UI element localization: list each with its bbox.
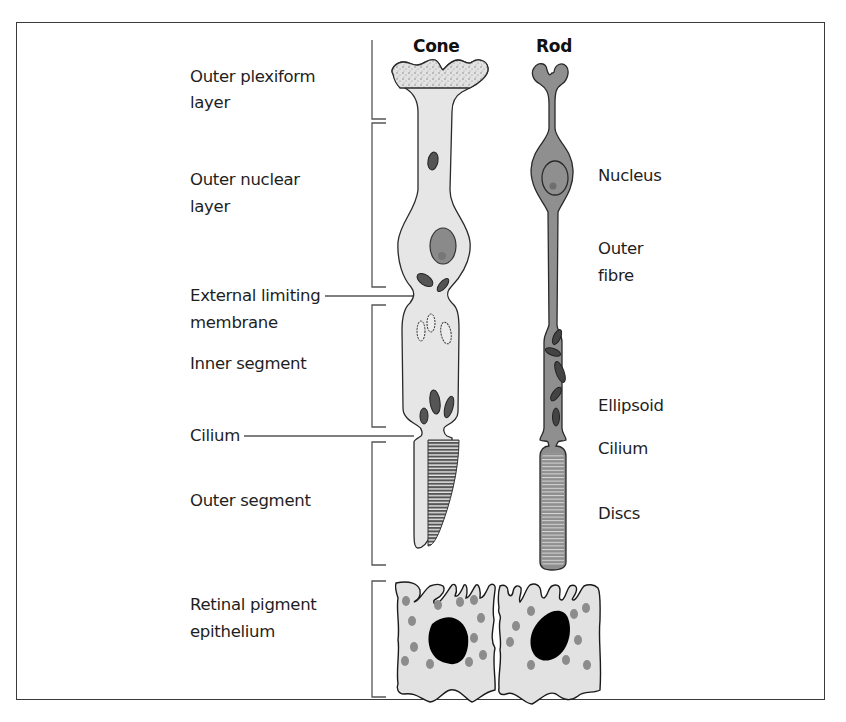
label-outer-segment: Outer segment <box>190 487 311 514</box>
rod-cell <box>531 64 573 570</box>
label-outer-plexiform-line2: layer <box>190 89 230 116</box>
rpe-cells <box>396 582 601 704</box>
label-outer-plexiform-line1: Outer plexiform <box>190 63 315 90</box>
cone-header: Cone <box>413 36 460 56</box>
bracket-outer-plexiform <box>372 40 386 119</box>
label-rpe-line1: Retinal pigment <box>190 591 317 618</box>
label-inner-segment: Inner segment <box>190 350 306 377</box>
label-outer-fibre-line2: fibre <box>598 262 634 289</box>
label-rpe-line2: epithelium <box>190 618 275 645</box>
bracket-rpe <box>372 581 386 697</box>
photoreceptor-diagram <box>0 0 846 722</box>
label-elm-line1: External limiting <box>190 282 320 309</box>
label-cilium-left: Cilium <box>190 422 240 449</box>
label-discs: Discs <box>598 500 640 527</box>
label-nucleus: Nucleus <box>598 162 662 189</box>
bracket-outer-nuclear <box>372 123 386 287</box>
label-outer-nuclear-line1: Outer nuclear <box>190 166 300 193</box>
cone-cell <box>392 60 488 548</box>
bracket-inner-segment <box>372 305 386 427</box>
label-elm-line2: membrane <box>190 309 278 336</box>
label-outer-fibre-line1: Outer <box>598 235 643 262</box>
label-ellipsoid: Ellipsoid <box>598 392 664 419</box>
rod-header: Rod <box>536 36 572 56</box>
label-outer-nuclear-line2: layer <box>190 193 230 220</box>
bracket-outer-segment <box>372 442 386 565</box>
label-cilium-right: Cilium <box>598 435 648 462</box>
